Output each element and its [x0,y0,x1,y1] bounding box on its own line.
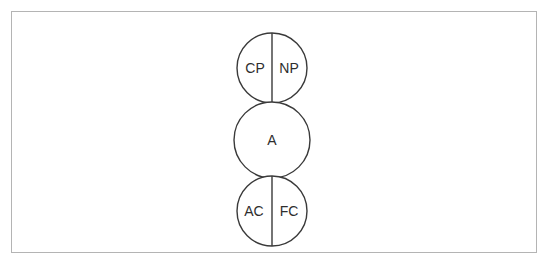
label-fc: FC [280,203,299,219]
label-ac: AC [244,203,263,219]
label-np: NP [279,60,298,76]
circle-child: AC FC [237,176,307,246]
ego-state-diagram: CP NP A AC FC [0,0,548,272]
diagram-canvas: CP NP A AC FC [0,0,548,272]
circle-adult: A [234,102,310,178]
circle-parent: CP NP [237,33,307,103]
label-a: A [267,132,277,148]
label-cp: CP [245,60,264,76]
